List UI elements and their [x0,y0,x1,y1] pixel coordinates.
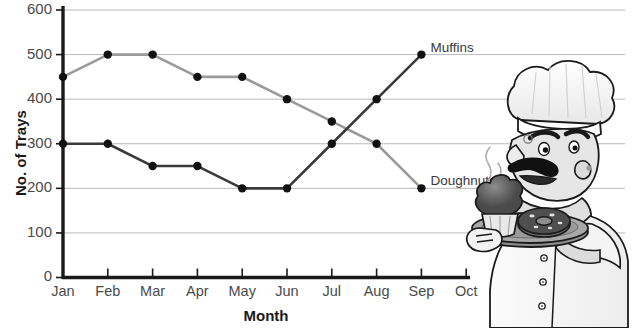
data-point-muffins-Apr [193,162,201,170]
data-point-doughnuts-Apr [193,73,201,81]
y-axis-tick-labels: 0100200300400500600 [27,0,52,284]
data-point-muffins-Sep [417,50,425,58]
x-axis-tick-label: Apr [186,283,209,299]
data-point-doughnuts-Aug [372,140,380,148]
data-point-muffins-Aug [372,95,380,103]
data-point-doughnuts-Sep [417,184,425,192]
y-axis-tick-label: 400 [27,89,52,106]
y-axis-tick-label: 200 [27,178,52,195]
trays-per-month-line-chart: 0100200300400500600 JanFebMarAprMayJunJu… [0,0,633,328]
x-axis-title: Month [244,307,289,324]
data-point-muffins-Mar [148,162,156,170]
y-axis-tick-label: 600 [27,0,52,17]
data-point-doughnuts-Jan [59,73,67,81]
data-point-doughnuts-May [238,73,246,81]
x-axis-ticks [63,269,466,277]
x-axis-tick-label: Jan [51,283,74,299]
x-axis-tick-label: Jun [275,283,298,299]
y-axis-tick-label: 300 [27,134,52,151]
x-axis-tick-label: Oct [455,283,478,299]
data-point-muffins-Feb [104,140,112,148]
data-point-doughnuts-Mar [148,50,156,58]
data-point-doughnuts-Feb [104,50,112,58]
data-point-muffins-Jul [328,140,336,148]
series-markers [59,50,426,192]
data-point-muffins-Jun [283,184,291,192]
data-point-muffins-May [238,184,246,192]
y-axis-tick-label: 100 [27,223,52,240]
x-axis-tick-label: May [228,283,256,299]
y-axis-tick-label: 500 [27,45,52,62]
doughnut-icon [518,208,570,237]
x-axis-tick-label: Jul [323,283,342,299]
chef-illustration [467,61,628,328]
data-point-doughnuts-Jun [283,95,291,103]
x-axis-tick-label: Aug [364,283,390,299]
series-label-muffins: Muffins [430,40,474,55]
x-axis-tick-label: Sep [408,283,434,299]
chart-canvas: 0100200300400500600 JanFebMarAprMayJunJu… [0,0,633,328]
data-point-doughnuts-Jul [328,117,336,125]
x-axis-tick-label: Feb [95,283,120,299]
x-axis-tick-label: Mar [140,283,165,299]
y-axis-title: No. of Trays [12,110,29,196]
data-point-muffins-Jan [59,140,67,148]
x-axis-tick-labels: JanFebMarAprMayJunJulAugSepOct [51,283,477,299]
series-annotations: MuffinsDoughnuts [430,40,496,189]
chef-hand-left [467,228,502,251]
